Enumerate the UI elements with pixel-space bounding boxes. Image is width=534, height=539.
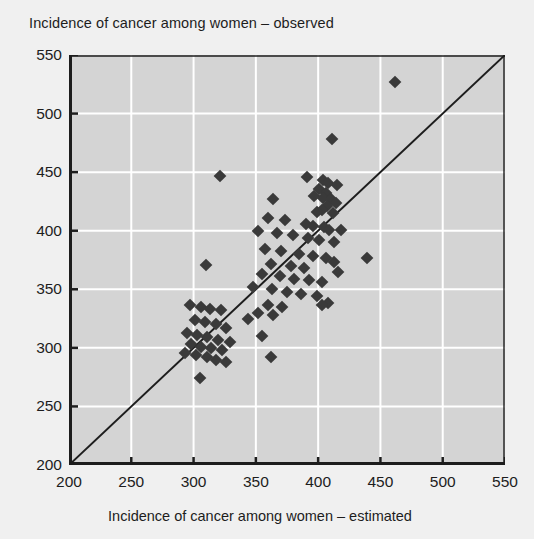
y-axis-tick-label: 350 [2, 280, 62, 298]
x-axis-tick-label: 250 [101, 473, 161, 491]
y-axis-tick-label: 550 [2, 46, 62, 64]
y-axis-tick-label: 200 [2, 456, 62, 474]
x-axis-tick-labels: 200250300350400450500550 [69, 473, 505, 497]
y-axis-tick-label: 500 [2, 105, 62, 123]
y-axis-tick-labels: 200250300350400450500550 [0, 55, 62, 465]
plot-grid-and-axes [69, 55, 505, 465]
x-axis-tick-label: 400 [288, 473, 348, 491]
y-axis-tick-label: 450 [2, 163, 62, 181]
x-axis-tick-label: 550 [475, 473, 534, 491]
chart-figure: Incidence of cancer among women – observ… [0, 0, 534, 539]
x-axis-tick-label: 200 [39, 473, 99, 491]
x-axis-tick-label: 500 [413, 473, 473, 491]
y-axis-tick-label: 300 [2, 339, 62, 357]
x-axis-tick-label: 300 [164, 473, 224, 491]
x-axis-tick-label: 350 [226, 473, 286, 491]
identity-reference-line [69, 55, 505, 465]
x-axis-title: Incidence of cancer among women – estima… [0, 508, 534, 524]
chart-title: Incidence of cancer among women – observ… [29, 15, 334, 31]
y-axis-tick-label: 250 [2, 397, 62, 415]
y-axis-tick-label: 400 [2, 222, 62, 240]
plot-area-wrapper [69, 55, 505, 465]
x-axis-tick-label: 450 [350, 473, 410, 491]
